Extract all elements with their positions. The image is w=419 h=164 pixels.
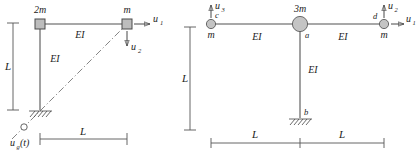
right-node-label-b: b	[304, 107, 308, 117]
left-vertical-dimension: L	[4, 23, 19, 110]
right-dof-u1-subscript: 1	[413, 19, 416, 26]
right-dof-u2: u 2	[384, 0, 399, 18]
right-fixed-support	[289, 119, 312, 125]
right-right-beam-ei-label: EI	[337, 31, 348, 42]
left-mass-label-2m: 2m	[34, 4, 46, 15]
left-ground-roller	[21, 124, 27, 130]
right-horizontal-dim-label-right: L	[338, 128, 345, 140]
right-vertical-dimension: L	[181, 27, 196, 130]
left-ground-motion-symbol: u	[10, 137, 15, 148]
left-ground-motion-label: u g (t)	[10, 137, 30, 150]
right-dof-u1: u 1	[391, 13, 416, 26]
right-vertical-dim-label: L	[181, 72, 188, 84]
left-dof-u2: u 2	[127, 31, 142, 54]
left-dof-u1-subscript: 1	[160, 19, 163, 26]
right-dof-u1-label: u	[406, 13, 411, 24]
right-mass-label-3m: 3m	[293, 3, 306, 14]
left-node-top-right	[122, 19, 132, 29]
right-left-beam-ei-label: EI	[251, 31, 262, 42]
right-horizontal-dimensions: L L	[211, 128, 384, 148]
left-ground-motion-arg: (t)	[20, 137, 30, 149]
right-dof-u3-label: u	[215, 0, 220, 11]
right-node-d	[379, 19, 388, 28]
left-dof-u2-label: u	[131, 41, 136, 52]
left-dof-u2-subscript: 2	[138, 47, 142, 54]
right-horizontal-dim-label-left: L	[251, 128, 258, 140]
right-node-label-c: c	[215, 10, 219, 20]
left-mass-label-m: m	[123, 4, 130, 15]
right-dof-u2-label: u	[388, 0, 393, 11]
right-mass-label-left-m: m	[207, 29, 214, 40]
right-dof-u2-subscript: 2	[395, 6, 399, 13]
right-frame-diagram: L c a b d	[181, 0, 416, 148]
right-node-label-d: d	[373, 11, 378, 21]
right-dof-u3-subscript: 3	[221, 6, 226, 13]
figure-root: L 2m m	[0, 0, 419, 164]
right-node-label-a: a	[305, 30, 309, 40]
figure-canvas: L 2m m	[0, 0, 419, 164]
right-column-ei-label: EI	[307, 64, 318, 75]
left-fixed-support	[29, 111, 52, 117]
left-horizontal-dim-label: L	[79, 125, 86, 137]
right-node-c	[206, 19, 215, 28]
left-node-top-left	[35, 19, 45, 29]
left-frame-diagram: L 2m m	[4, 4, 163, 150]
left-column-ei-label: EI	[49, 53, 60, 64]
left-horizontal-dimension: L	[40, 125, 127, 145]
left-beam-ei-label: EI	[74, 29, 85, 40]
left-dof-u1: u 1	[134, 13, 163, 26]
left-diagonal-dashdot-line	[12, 20, 131, 139]
left-dof-u1-label: u	[153, 13, 158, 24]
right-mass-label-right-m: m	[380, 29, 387, 40]
left-vertical-dim-label: L	[4, 60, 11, 72]
